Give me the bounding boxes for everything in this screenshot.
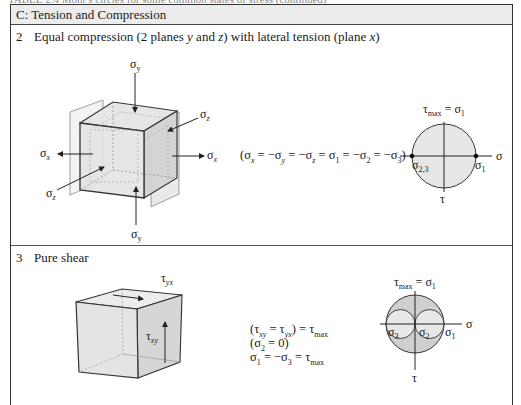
tau-max-label: τmax = σ1 (423, 102, 465, 118)
tau-yx-label: τyx (161, 271, 173, 287)
tau-axis-label: τ (412, 371, 417, 385)
sigma-x-right-label: σx (207, 148, 217, 164)
sigma-y-bottom-label: σy (131, 227, 141, 243)
sigma-1-label: σ1 (475, 158, 485, 174)
sigma-axis-label: σ (496, 149, 503, 163)
row-3-shear-cube: τyx τxy (76, 271, 182, 378)
sigma-z-back-label: σz (200, 107, 210, 123)
cube-front-face (80, 123, 144, 198)
cube-front-face (76, 302, 138, 378)
tau-axis-label: τ (440, 192, 445, 206)
row-3-mohr-circle: τmax = σ1 σ τ σ3 σ2 σ1 (380, 275, 473, 385)
tau-max-label: τmax = σ1 (394, 275, 436, 291)
cube-right-face (137, 295, 182, 378)
sigma-x-left-label: σx (40, 146, 50, 162)
row-2-mohr-circle: τmax = σ1 σ τ σ2,3 σ1 (400, 102, 503, 206)
sigma-1-label: σ1 (445, 325, 455, 341)
row-2-equation: (σx = −σy = −σz = σ1 = −σ2 = −σ3) (240, 148, 406, 165)
row-3-equation-3: σ1 = −σ3 = τmax (250, 350, 324, 367)
sigma-y-top-label: σy (130, 57, 140, 73)
sigma-axis-label: σ (466, 317, 473, 331)
sigma-z-front-label: σz (46, 186, 56, 202)
